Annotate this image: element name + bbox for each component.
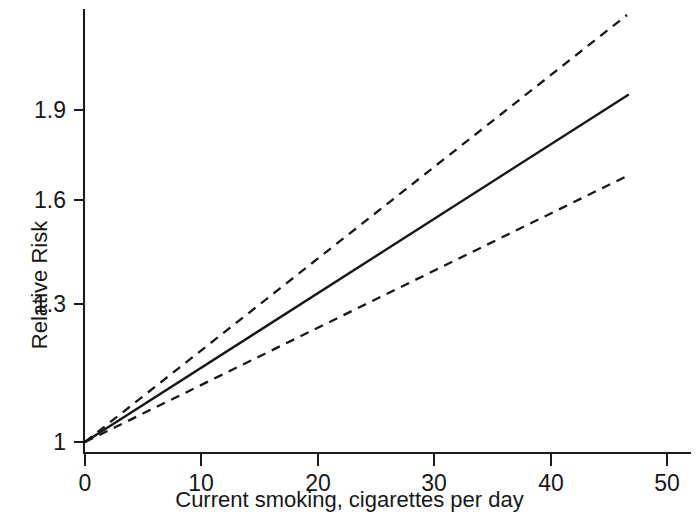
figure-canvas: 1.9 1.6 1.3 1 0 10 20 30 40 50 Current s… [0,0,699,529]
series-upper-ci-line [85,15,627,442]
y-tick-label-1.9: 1.9 [4,97,66,124]
y-tick-label-1: 1 [4,429,66,456]
x-axis-title: Current smoking, cigarettes per day [0,487,699,513]
chart-plot-area [0,0,699,529]
series-lower-ci-line [85,177,625,442]
y-axis-title: Relative Risk [27,190,53,380]
series-fitted-line [85,95,628,442]
